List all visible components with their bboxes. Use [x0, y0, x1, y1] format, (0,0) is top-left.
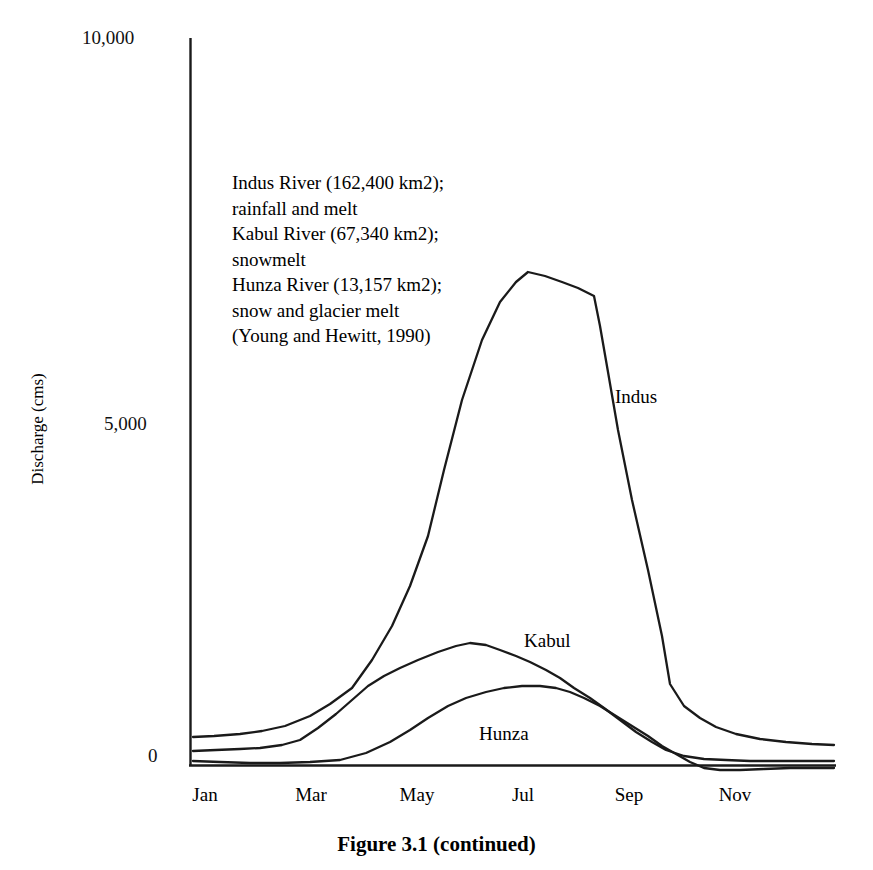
series-label-kabul: Kabul [524, 630, 570, 652]
y-axis-title: Discharge (cms) [28, 329, 48, 529]
x-axis-tick-may: May [382, 784, 452, 806]
x-axis-tick-jan: Jan [170, 784, 240, 806]
series-label-indus: Indus [615, 386, 657, 408]
chart-plot-area [0, 0, 873, 870]
y-axis-tick-10000: 10,000 [82, 27, 134, 49]
figure-container: 10,000 5,000 0 Discharge (cms) Jan Mar M… [0, 0, 873, 870]
y-axis-tick-5000: 5,000 [104, 413, 147, 435]
figure-caption: Figure 3.1 (continued) [0, 832, 873, 857]
y-axis-tick-0: 0 [148, 745, 158, 767]
x-axis-tick-sep: Sep [594, 784, 664, 806]
x-axis-tick-jul: Jul [488, 784, 558, 806]
axis-lines [189, 38, 836, 766]
series-label-hunza: Hunza [479, 723, 529, 745]
x-axis-tick-mar: Mar [276, 784, 346, 806]
x-axis-tick-nov: Nov [700, 784, 770, 806]
chart-annotation-text: Indus River (162,400 km2); rainfall and … [232, 170, 444, 349]
